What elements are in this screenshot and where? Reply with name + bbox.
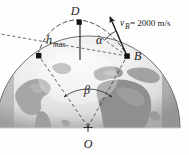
velocity-value: = 2000 m/s: [130, 18, 171, 28]
launch-point-marker: [124, 53, 129, 58]
max-height-symbol: h: [46, 33, 52, 47]
alpha-angle-label: α: [96, 33, 103, 47]
apex-point-marker: [77, 20, 82, 25]
beta-angle-label: β: [83, 83, 90, 97]
trajectory-figure: D B O h max α β v B = 2000 m/s: [0, 0, 189, 155]
globe-rim-shadow-left: [0, 74, 14, 128]
globe-rim-shadow-right: [162, 74, 180, 128]
globe-highlight: [38, 52, 118, 104]
figure-canvas: D B O h max α β v B = 2000 m/s: [0, 0, 189, 155]
apex-point-label: D: [70, 4, 80, 18]
launch-point-label: B: [134, 49, 142, 63]
velocity-label: v B = 2000 m/s: [120, 18, 171, 31]
max-height-label: h max: [46, 33, 66, 49]
max-height-subscript: max: [53, 40, 66, 49]
impact-point-marker: [36, 53, 41, 58]
center-point-label: O: [84, 137, 93, 151]
